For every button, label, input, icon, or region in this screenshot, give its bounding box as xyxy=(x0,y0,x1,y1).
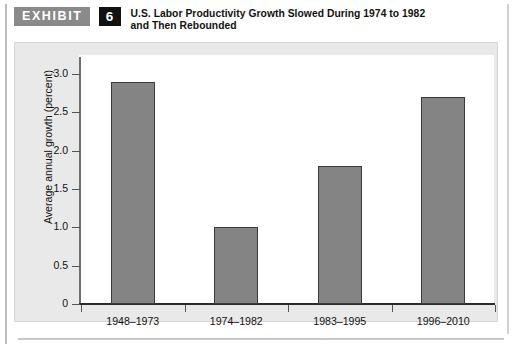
y-axis-tick: 2.0 xyxy=(72,151,80,152)
y-axis-tick: 0 xyxy=(72,304,80,305)
y-axis-tick: 3.0 xyxy=(72,74,80,75)
bars-layer xyxy=(81,55,495,304)
y-axis-tick-label: 2.5 xyxy=(53,105,68,117)
bar xyxy=(421,97,465,304)
x-axis-category-label: 1996–2010 xyxy=(417,315,470,327)
exhibit-title-line-1: U.S. Labor Productivity Growth Slowed Du… xyxy=(131,8,426,20)
bar xyxy=(111,82,155,304)
y-axis-tick: 1.5 xyxy=(72,189,80,190)
x-axis-tick xyxy=(288,305,289,312)
y-axis-tick: 2.5 xyxy=(72,112,80,113)
chart-panel: Average annual growth (percent) 00.51.01… xyxy=(14,42,498,322)
exhibit-number-badge: 6 xyxy=(99,7,121,26)
page-frame-right-rule xyxy=(507,4,509,334)
exhibit-badge-label: EXHIBIT xyxy=(14,7,90,26)
x-axis-tick xyxy=(81,305,82,312)
page-frame-bottom-rule xyxy=(18,338,504,340)
y-axis-tick: 0.5 xyxy=(72,266,80,267)
y-axis-tick-label: 0 xyxy=(62,297,68,309)
exhibit-title-line-2: and Then Rebounded xyxy=(131,20,426,32)
x-axis-category-label: 1948–1973 xyxy=(106,315,159,327)
exhibit-header: EXHIBIT 6 U.S. Labor Productivity Growth… xyxy=(14,7,484,37)
y-axis-tick-label: 1.5 xyxy=(53,182,68,194)
x-axis-tick xyxy=(392,305,393,312)
y-axis-tick-label: 1.0 xyxy=(53,220,68,232)
x-axis-ticks-and-labels: 1948–19731974–19821983–19951996–2010 xyxy=(81,305,495,335)
y-axis-tick-label: 0.5 xyxy=(53,259,68,271)
y-axis-tick-label: 3.0 xyxy=(53,67,68,79)
page-frame-left-rule xyxy=(5,4,7,344)
y-axis-tick: 1.0 xyxy=(72,227,80,228)
y-axis-title: Average annual growth (percent) xyxy=(42,52,54,242)
x-axis-category-label: 1983–1995 xyxy=(313,315,366,327)
x-axis-category-label: 1974–1982 xyxy=(210,315,263,327)
bar xyxy=(318,166,362,304)
x-axis-tick xyxy=(185,305,186,312)
exhibit-title: U.S. Labor Productivity Growth Slowed Du… xyxy=(131,7,426,33)
exhibit-page: EXHIBIT 6 U.S. Labor Productivity Growth… xyxy=(0,0,512,351)
y-axis-tick-label: 2.0 xyxy=(53,144,68,156)
x-axis-tick xyxy=(495,305,496,312)
bar xyxy=(214,227,258,304)
